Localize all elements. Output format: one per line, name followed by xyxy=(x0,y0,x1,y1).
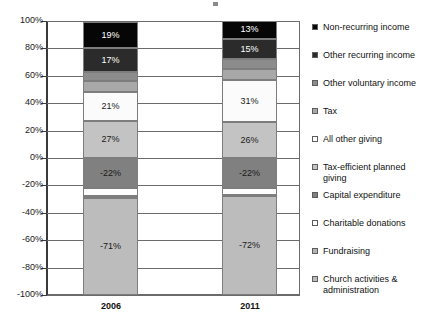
legend-item[interactable]: Church activities & administration xyxy=(312,274,434,302)
y-axis-tick-label: 0% xyxy=(3,153,43,162)
y-axis-tick-label: -20% xyxy=(3,180,43,189)
legend-swatch-icon xyxy=(312,192,318,198)
bar-segment xyxy=(83,72,138,82)
bar-segment: 26% xyxy=(222,122,277,158)
y-axis-tick-label: 100% xyxy=(3,16,43,25)
segment-value-label: 15% xyxy=(240,45,258,54)
y-axis-tick-label-wrap: -20% xyxy=(0,180,43,189)
segment-value-label: -72% xyxy=(239,241,260,250)
bar-segment: -22% xyxy=(83,158,138,188)
legend-item[interactable]: Other recurring income xyxy=(312,50,434,78)
segment-value-label: 21% xyxy=(101,102,119,111)
y-axis-tick-label-wrap: 80% xyxy=(0,43,43,52)
legend-swatch-icon xyxy=(312,220,318,226)
y-axis-tick-label-wrap: -60% xyxy=(0,235,43,244)
bar-segment xyxy=(222,188,277,195)
y-axis-tick-label: 40% xyxy=(3,98,43,107)
legend-label: Non-recurring income xyxy=(323,22,410,33)
segment-value-label: 17% xyxy=(101,56,119,65)
y-axis-tick-label-wrap: 0% xyxy=(0,153,43,162)
y-axis-tick-label-wrap: 100% xyxy=(0,16,43,25)
bar-segment: 27% xyxy=(83,121,138,158)
legend-swatch-icon xyxy=(312,248,318,254)
chart-legend: Non-recurring incomeOther recurring inco… xyxy=(312,22,434,302)
y-axis-tick-label-wrap: 20% xyxy=(0,126,43,135)
y-axis-tick-label: 80% xyxy=(3,43,43,52)
x-axis-label-2006: 2006 xyxy=(76,301,146,311)
legend-swatch-icon xyxy=(312,136,318,142)
legend-item[interactable]: Tax-efficient planned giving xyxy=(312,162,434,190)
segment-value-label: 26% xyxy=(240,136,258,145)
legend-swatch-icon xyxy=(312,108,318,114)
legend-label: Capital expenditure xyxy=(323,190,401,201)
y-axis-tick-label-wrap: 60% xyxy=(0,71,43,80)
y-axis-tick-label-wrap: -40% xyxy=(0,208,43,217)
legend-label: Tax-efficient planned giving xyxy=(323,162,429,184)
legend-label: Church activities & administration xyxy=(323,274,429,296)
legend-swatch-icon xyxy=(312,24,318,30)
y-axis-tick-label-wrap: -100% xyxy=(0,290,43,299)
bar-segment: 15% xyxy=(222,39,277,60)
legend-label: Fundraising xyxy=(323,246,370,257)
bar-segment: -72% xyxy=(222,196,277,295)
top-edge-artifact xyxy=(213,2,218,6)
stacked-bar-chart: 100%80%60%40%20%0%-20%-40%-60%-80%-100% … xyxy=(0,0,435,320)
legend-label: Tax xyxy=(323,106,337,117)
bar-segment xyxy=(222,59,277,69)
bar-segment: 19% xyxy=(83,22,138,48)
y-axis-tick-label: 60% xyxy=(3,71,43,80)
segment-value-label: 31% xyxy=(240,97,258,106)
legend-swatch-icon xyxy=(312,52,318,58)
bar-segment xyxy=(222,69,277,80)
bar-segment xyxy=(83,188,138,196)
legend-label: All other giving xyxy=(323,134,382,145)
segment-value-label: -22% xyxy=(100,169,121,178)
legend-label: Other voluntary income xyxy=(323,78,416,89)
bar-segment: 17% xyxy=(83,48,138,71)
legend-item[interactable]: Charitable donations xyxy=(312,218,434,246)
bar-segment: 21% xyxy=(83,92,138,121)
bar-segment xyxy=(83,81,138,92)
legend-label: Other recurring income xyxy=(323,50,415,61)
segment-value-label: 19% xyxy=(101,31,119,40)
legend-swatch-icon xyxy=(312,164,318,170)
y-axis-tick-label-wrap: -80% xyxy=(0,263,43,272)
legend-item[interactable]: All other giving xyxy=(312,134,434,162)
segment-value-label: 13% xyxy=(240,25,258,34)
bar-segment: 13% xyxy=(222,21,277,39)
legend-label: Charitable donations xyxy=(323,218,406,229)
legend-item[interactable]: Other voluntary income xyxy=(312,78,434,106)
gridline xyxy=(46,295,300,296)
bar-segment: -22% xyxy=(222,158,277,188)
legend-item[interactable]: Fundraising xyxy=(312,246,434,274)
y-axis-tick-label: 20% xyxy=(3,126,43,135)
y-axis-tick-label: -60% xyxy=(3,235,43,244)
legend-item[interactable]: Capital expenditure xyxy=(312,190,434,218)
segment-value-label: 27% xyxy=(101,135,119,144)
bar-segment: -71% xyxy=(83,198,138,295)
y-axis-tick-label: -40% xyxy=(3,208,43,217)
segment-value-label: -71% xyxy=(100,242,121,251)
y-axis-tick-label-wrap: 40% xyxy=(0,98,43,107)
segment-value-label: -22% xyxy=(239,169,260,178)
legend-swatch-icon xyxy=(312,80,318,86)
bar-segment: 31% xyxy=(222,80,277,122)
y-axis-tick-label: -100% xyxy=(3,290,43,299)
legend-item[interactable]: Tax xyxy=(312,106,434,134)
x-axis-label-2011: 2011 xyxy=(215,301,285,311)
legend-swatch-icon xyxy=(312,276,318,282)
legend-item[interactable]: Non-recurring income xyxy=(312,22,434,50)
y-axis-tick-label: -80% xyxy=(3,263,43,272)
